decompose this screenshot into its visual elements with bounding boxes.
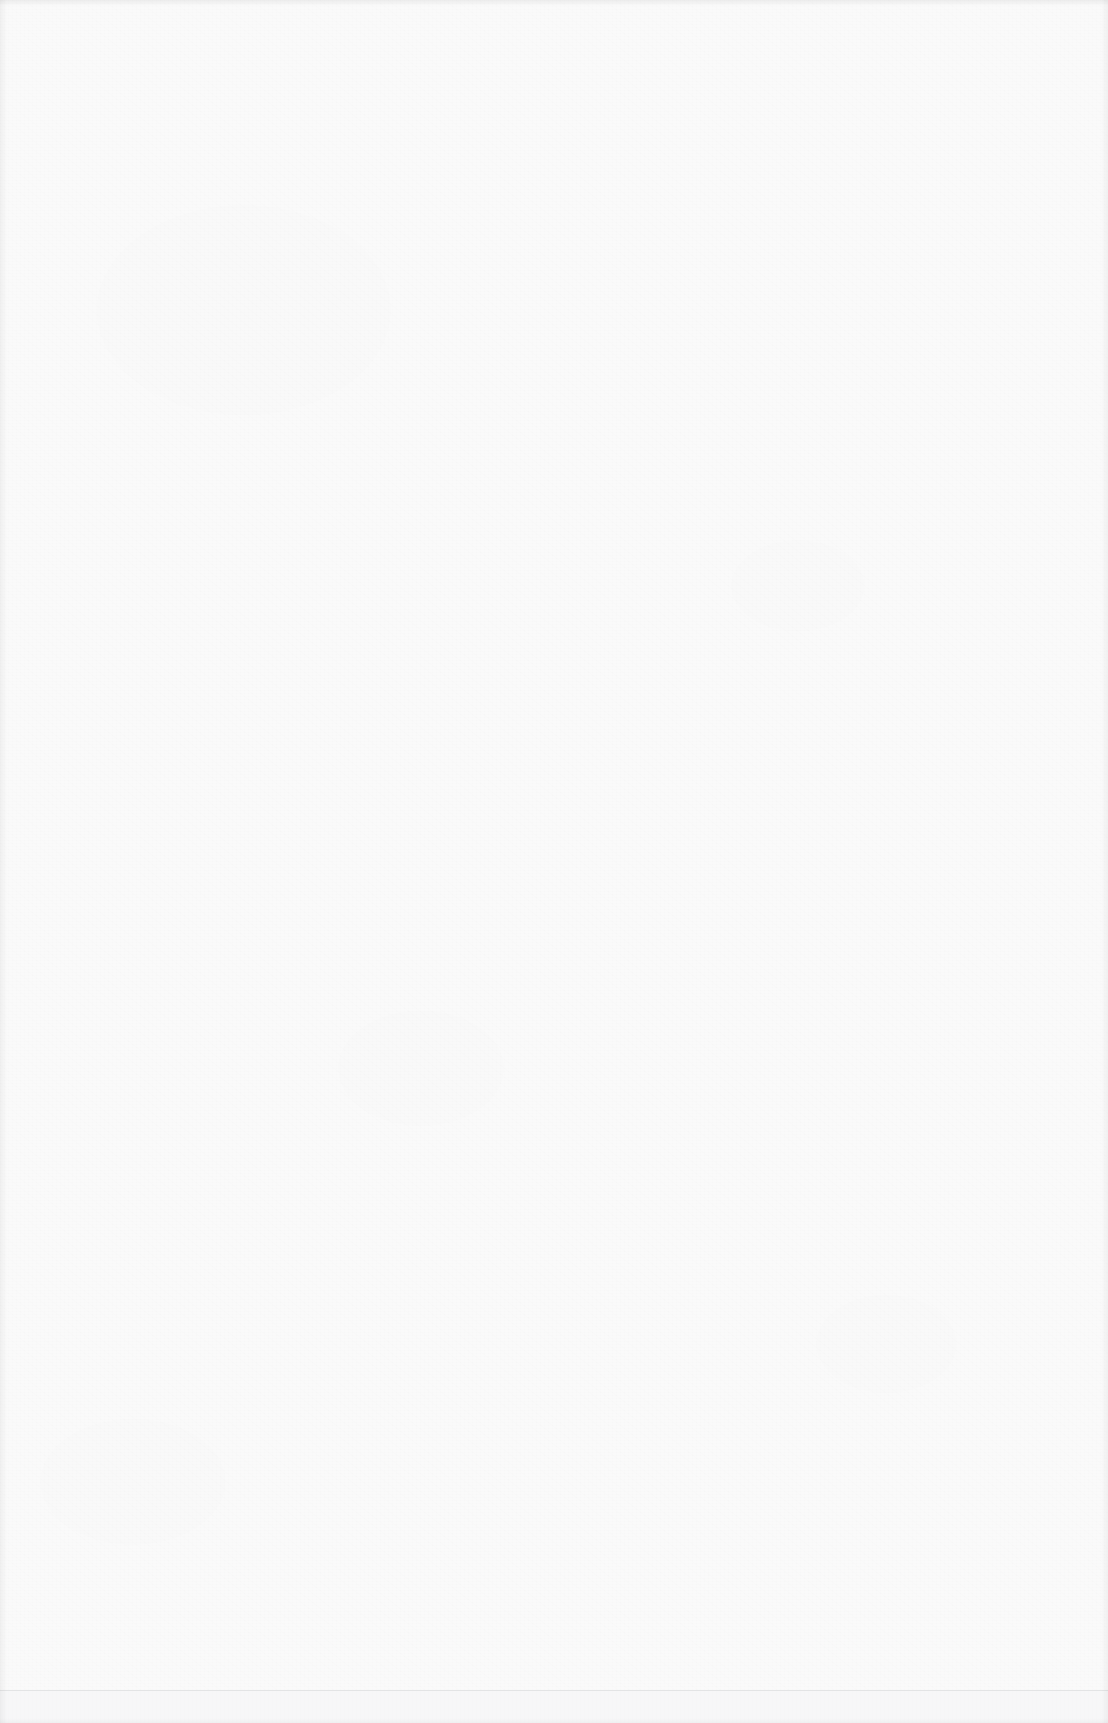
footer-texture xyxy=(0,1691,1108,1723)
page-content-area xyxy=(0,0,1108,1690)
document-page xyxy=(0,0,1108,1723)
page-footer xyxy=(0,1691,1108,1723)
